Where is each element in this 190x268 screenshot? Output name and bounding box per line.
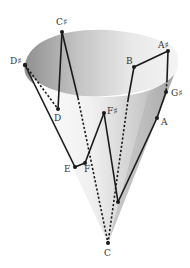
label-E: E	[64, 164, 71, 174]
label-Ds: D♯	[10, 56, 22, 66]
label-C: C	[104, 248, 111, 258]
label-As: A♯	[157, 40, 169, 50]
point-Ds	[23, 63, 27, 67]
cone-inner-surface	[24, 30, 178, 97]
edge-As-Gs-top	[167, 51, 168, 80]
label-B: B	[126, 56, 133, 66]
point-Gs	[164, 90, 168, 94]
label-Gs: G♯	[171, 88, 183, 98]
label-Fs: F♯	[107, 106, 118, 116]
point-Fs	[102, 111, 106, 115]
point-C	[106, 241, 110, 245]
point-Cs	[60, 30, 64, 34]
point-P	[116, 200, 120, 204]
label-D: D	[54, 113, 61, 123]
cone-diagram: C♯ D♯ D B A♯ G♯ A F♯ E F C	[0, 0, 190, 268]
point-E	[73, 165, 77, 169]
label-A: A	[160, 117, 168, 127]
point-D	[56, 107, 60, 111]
label-F: F	[84, 164, 90, 174]
point-A	[155, 116, 159, 120]
label-Cs: C♯	[56, 17, 67, 27]
